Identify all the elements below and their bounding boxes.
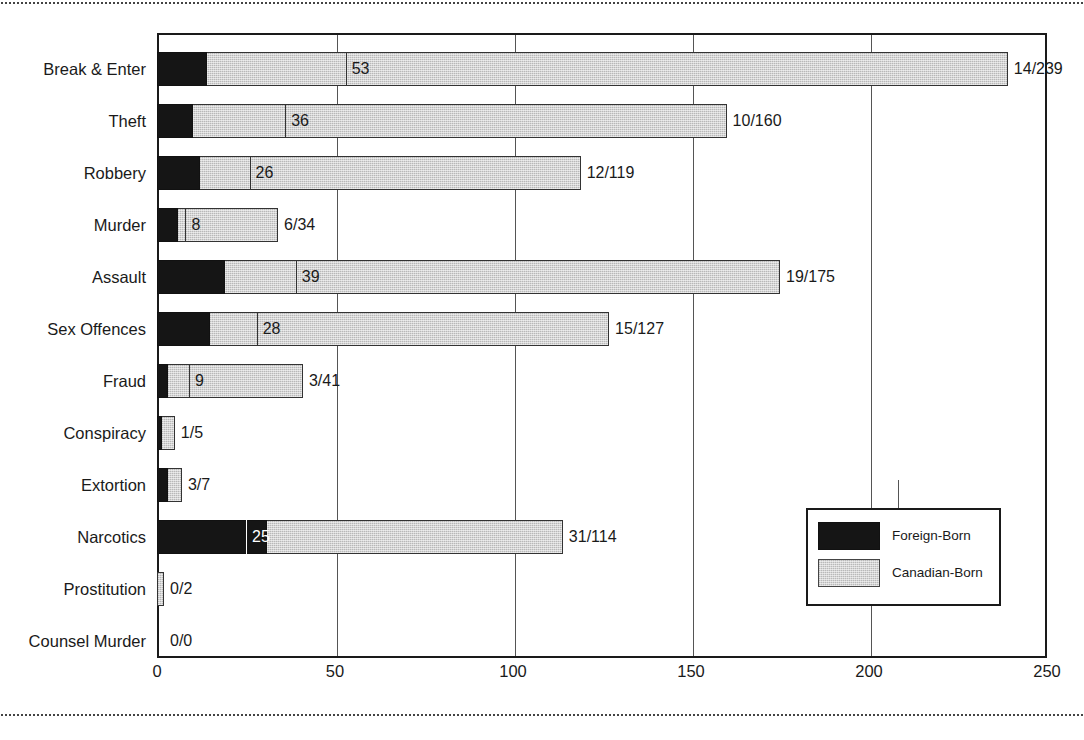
bar-group: 0/0 xyxy=(157,615,1047,667)
bar-group: 2815/127 xyxy=(157,303,1047,355)
inner-value-label: 36 xyxy=(285,104,309,138)
ratio-label: 15/127 xyxy=(609,312,664,346)
bar-row: Sex Offences2815/127 xyxy=(0,303,1084,355)
category-label: Prostitution xyxy=(0,563,146,615)
category-label: Sex Offences xyxy=(0,303,146,355)
ratio-label: 1/5 xyxy=(175,416,203,450)
x-tick-label: 100 xyxy=(499,662,527,681)
legend-swatch-gray xyxy=(818,559,880,587)
chart-page: Break & Enter5314/239Theft3610/160Robber… xyxy=(0,0,1084,740)
bar-foreign-born xyxy=(157,156,200,190)
x-tick-label: 50 xyxy=(326,662,344,681)
ratio-label: 19/175 xyxy=(780,260,835,294)
bar-row: Theft3610/160 xyxy=(0,95,1084,147)
x-tick-label: 200 xyxy=(855,662,883,681)
legend-swatch-black xyxy=(818,522,880,550)
bar-group: 3610/160 xyxy=(157,95,1047,147)
bar-foreign-born xyxy=(157,260,225,294)
bar-row: Counsel Murder0/0 xyxy=(0,615,1084,667)
ratio-label: 12/119 xyxy=(581,156,635,190)
category-label: Narcotics xyxy=(0,511,146,563)
bar-group: 2612/119 xyxy=(157,147,1047,199)
inner-value-label: 9 xyxy=(189,364,204,398)
bar-canadian-born xyxy=(157,312,609,346)
ratio-label: 0/0 xyxy=(164,624,192,658)
ratio-label: 3/7 xyxy=(182,468,210,502)
inner-value-label: 53 xyxy=(346,52,370,86)
bar-group: 1/5 xyxy=(157,407,1047,459)
bar-group: 86/34 xyxy=(157,199,1047,251)
legend-item: Canadian-Born xyxy=(818,559,993,589)
bar-canadian-born xyxy=(157,52,1008,86)
bar-foreign-born xyxy=(157,364,168,398)
category-label: Extortion xyxy=(0,459,146,511)
inner-value-label: 25 xyxy=(246,520,270,554)
ratio-label: 14/239 xyxy=(1008,52,1063,86)
ratio-label: 10/160 xyxy=(727,104,782,138)
category-label: Assault xyxy=(0,251,146,303)
x-axis: 050100150200250 xyxy=(157,662,1047,692)
bar-row: Fraud93/41 xyxy=(0,355,1084,407)
legend-label: Canadian-Born xyxy=(892,559,983,587)
top-dotted-rule xyxy=(0,2,1084,4)
bar-foreign-born xyxy=(157,312,210,346)
category-label: Murder xyxy=(0,199,146,251)
legend-leader-line xyxy=(898,480,899,508)
inner-value-label: 28 xyxy=(257,312,281,346)
ratio-label: 6/34 xyxy=(278,208,315,242)
bar-group: 93/41 xyxy=(157,355,1047,407)
category-label: Theft xyxy=(0,95,146,147)
ratio-label: 3/41 xyxy=(303,364,340,398)
x-tick-label: 250 xyxy=(1033,662,1061,681)
legend-item: Foreign-Born xyxy=(818,522,993,552)
bar-foreign-born xyxy=(157,416,162,450)
bar-group: 3919/175 xyxy=(157,251,1047,303)
bar-row: Conspiracy1/5 xyxy=(0,407,1084,459)
inner-value-label: 39 xyxy=(296,260,320,294)
bar-row: Robbery2612/119 xyxy=(0,147,1084,199)
ratio-label: 31/114 xyxy=(563,520,617,554)
bar-canadian-born xyxy=(157,104,727,138)
bar-canadian-born xyxy=(157,364,303,398)
bar-foreign-born xyxy=(157,208,178,242)
bar-group: 3/7 xyxy=(157,459,1047,511)
bar-canadian-born xyxy=(157,572,164,606)
bar-row: Assault3919/175 xyxy=(0,251,1084,303)
bar-canadian-born xyxy=(157,260,780,294)
bar-group: 5314/239 xyxy=(157,43,1047,95)
category-label: Conspiracy xyxy=(0,407,146,459)
legend-label: Foreign-Born xyxy=(892,522,971,550)
bar-foreign-born xyxy=(157,104,193,138)
category-label: Robbery xyxy=(0,147,146,199)
bar-row: Murder86/34 xyxy=(0,199,1084,251)
x-tick-label: 0 xyxy=(152,662,161,681)
category-label: Break & Enter xyxy=(0,43,146,95)
bar-row: Break & Enter5314/239 xyxy=(0,43,1084,95)
legend: Foreign-BornCanadian-Born xyxy=(806,508,1001,606)
inner-value-label: 8 xyxy=(185,208,200,242)
category-label: Counsel Murder xyxy=(0,615,146,667)
bar-foreign-born xyxy=(157,468,168,502)
inner-value-label: 26 xyxy=(250,156,274,190)
category-label: Fraud xyxy=(0,355,146,407)
x-tick-label: 150 xyxy=(677,662,705,681)
bar-foreign-born xyxy=(157,52,207,86)
bar-canadian-born xyxy=(157,156,581,190)
ratio-label: 0/2 xyxy=(164,572,192,606)
bottom-dotted-rule xyxy=(0,714,1084,716)
bar-row: Extortion3/7 xyxy=(0,459,1084,511)
